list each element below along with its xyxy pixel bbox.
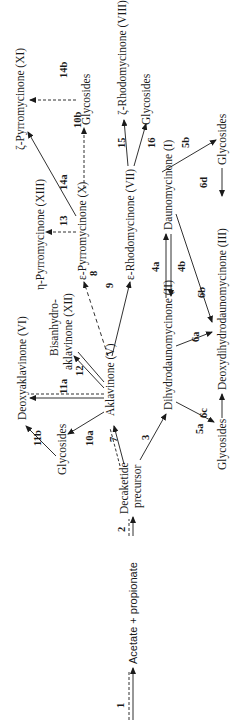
step-label-13: 13 xyxy=(58,216,69,227)
node-eps-pyrromycinone: ε-Pyrromycinone (X) xyxy=(76,182,88,280)
step-label-2: 2 xyxy=(116,527,127,532)
pathway-diagram: Acetate + propionate Decaketide precurso… xyxy=(0,0,238,728)
node-decaketide-line1: Decaketide xyxy=(118,462,130,514)
step-label-6a: 6a xyxy=(190,332,201,343)
step-label-11b: 11b xyxy=(32,430,43,446)
step-label-6c: 6c xyxy=(198,408,209,418)
step-label-5a: 5a xyxy=(194,424,205,435)
node-bisanhydro-line1: Bisanhydro- xyxy=(48,299,60,356)
node-deoxyaklavinone: Deoxyaklavinone (VI) xyxy=(16,316,28,420)
step-label-15: 15 xyxy=(116,138,127,149)
node-zeta-pyrromycinone: ζ-Pyrromycinone (XI) xyxy=(14,48,26,150)
node-eta-pyrromycinone: η-Pyrromycinone (XIII) xyxy=(34,179,46,290)
step-label-6b: 6b xyxy=(196,287,207,298)
step-label-8: 8 xyxy=(88,271,99,276)
node-deoxydihydrodaunomycinone: Deoxydihydrodaunomycinone (III) xyxy=(216,228,228,390)
step-label-4b: 4b xyxy=(176,261,187,272)
node-daunomycinone: Daunomycinone (I) xyxy=(162,140,174,230)
step-label-1: 1 xyxy=(115,703,126,708)
step-label-4a: 4a xyxy=(150,262,161,273)
node-acetate-propionate: Acetate + propionate xyxy=(127,562,139,664)
node-glycosides-daunomycinone: Glycosides xyxy=(216,114,228,165)
step-label-5b: 5b xyxy=(180,137,191,148)
step-label-11a: 11a xyxy=(58,379,69,394)
step-label-14a: 14a xyxy=(58,174,69,190)
step-label-10b: 10b xyxy=(72,112,83,128)
step-label-7: 7 xyxy=(108,437,119,442)
step-label-12: 12 xyxy=(74,366,85,377)
step-label-10a: 10a xyxy=(84,430,95,446)
node-dihydrodaunomycinone: Dihydrodaunomycinone (II) xyxy=(162,280,174,410)
node-glycosides-dihydrodaunomycinone: Glycosides xyxy=(216,419,228,470)
step-label-9: 9 xyxy=(104,283,115,288)
node-decaketide-line2: precursor xyxy=(131,465,143,508)
step-label-3: 3 xyxy=(140,435,151,440)
node-eps-rhodomycinone: ε-Rhodomycinone (VII) xyxy=(124,169,136,280)
node-glycosides-rhodomycinone: Glycosides xyxy=(140,74,152,125)
node-zeta-rhodomycinone: ζ-Rhodomycinone (VIII) xyxy=(116,0,128,115)
node-glycosides-aklavinone: Glycosides xyxy=(56,424,68,475)
step-label-6d: 6d xyxy=(198,177,209,188)
step-label-14b: 14b xyxy=(58,62,69,78)
node-bisanhydro-line2: aklavinone (XII) xyxy=(62,293,74,370)
node-aklavinone: Aklavinone (V) xyxy=(104,344,116,417)
step-label-16: 16 xyxy=(146,138,157,149)
